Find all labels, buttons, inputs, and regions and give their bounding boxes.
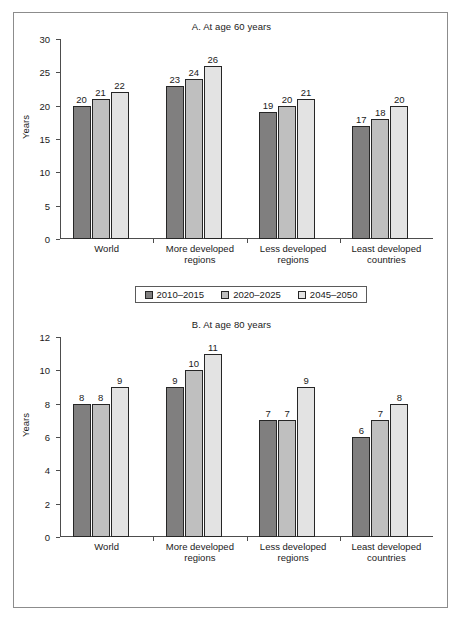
figure-page: A. At age 60 years Years 051015202530202… <box>0 0 461 622</box>
bar-value-label: 20 <box>76 94 87 105</box>
chart-panel-a: A. At age 60 years Years 051015202530202… <box>14 15 449 311</box>
bar-value-label: 11 <box>208 342 218 353</box>
bar: 21 <box>92 99 110 239</box>
bar: 26 <box>204 66 222 239</box>
chart-b-plot-area: 02468101288991011779678 <box>60 337 433 537</box>
x-axis-category-label-line: Least developed <box>340 541 433 552</box>
bar-value-label: 8 <box>98 392 103 403</box>
bar-group: 171820 <box>340 39 433 239</box>
bar-value-label: 9 <box>172 375 177 386</box>
bar-value-label: 24 <box>189 67 200 78</box>
bar: 22 <box>111 92 129 239</box>
chart-a-plot-area: 051015202530202122232426192021171820 <box>60 39 433 239</box>
chart-b-y-axis-title: Years <box>20 413 31 437</box>
y-axis-tick: 0 <box>56 239 60 240</box>
x-axis-category-label-line: countries <box>340 552 433 563</box>
bar: 11 <box>204 354 222 537</box>
bar-value-label: 26 <box>208 54 219 65</box>
y-axis-tick-label: 8 <box>45 398 50 409</box>
bar-value-label: 19 <box>263 100 274 111</box>
x-axis-category-label-line: regions <box>247 552 340 563</box>
x-axis-category-label: World <box>60 243 153 254</box>
y-axis-tick: 0 <box>56 537 60 538</box>
legend-label: 2010–2015 <box>157 289 205 300</box>
bar: 23 <box>166 86 184 239</box>
x-axis-category-label: Least developedcountries <box>340 243 433 265</box>
bar: 21 <box>297 99 315 239</box>
chart-panel-b: B. At age 80 years Years 024681012889910… <box>14 313 449 607</box>
x-axis-category-label-line: regions <box>153 552 246 563</box>
x-axis-category-label-line: More developed <box>153 243 246 254</box>
y-axis-tick-label: 2 <box>45 498 50 509</box>
bar: 7 <box>371 420 389 537</box>
bar: 7 <box>259 420 277 537</box>
bar-group: 889 <box>60 337 153 537</box>
bar: 18 <box>371 119 389 239</box>
bar: 8 <box>390 404 408 537</box>
bar: 17 <box>352 126 370 239</box>
bar-group: 678 <box>340 337 433 537</box>
bar: 8 <box>73 404 91 537</box>
legend-swatch-icon <box>298 291 306 299</box>
chart-a-title: A. At age 60 years <box>14 21 449 32</box>
x-axis-category-label-line: Less developed <box>247 243 340 254</box>
chart-a-legend: 2010–20152020–20252045–2050 <box>135 286 367 303</box>
bar-group: 91011 <box>153 337 246 537</box>
bar: 8 <box>92 404 110 537</box>
y-axis-tick-label: 12 <box>39 332 50 343</box>
bar-value-label: 7 <box>378 408 383 419</box>
legend-item: 2010–2015 <box>145 289 205 300</box>
bar-value-label: 18 <box>375 107 386 118</box>
y-axis-tick-label: 15 <box>39 134 50 145</box>
x-axis-category-label: More developedregions <box>153 243 246 265</box>
legend-item: 2020–2025 <box>221 289 281 300</box>
legend-label: 2020–2025 <box>233 289 281 300</box>
y-axis-tick-label: 5 <box>45 200 50 211</box>
figure-frame: A. At age 60 years Years 051015202530202… <box>13 12 448 608</box>
y-axis-tick-label: 10 <box>39 167 50 178</box>
x-axis-category-label: Less developedregions <box>247 243 340 265</box>
bar-value-label: 10 <box>189 358 200 369</box>
bar-value-label: 7 <box>284 408 289 419</box>
x-axis-category-label: Less developedregions <box>247 541 340 563</box>
x-axis-category-label-line: World <box>60 243 153 254</box>
bar-value-label: 17 <box>356 114 367 125</box>
y-axis-tick-label: 0 <box>45 532 50 543</box>
legend-item: 2045–2050 <box>298 289 358 300</box>
y-axis-tick-label: 6 <box>45 432 50 443</box>
bar: 9 <box>111 387 129 537</box>
x-axis-category-label-line: countries <box>340 254 433 265</box>
x-axis-category-label-line: regions <box>153 254 246 265</box>
bar-value-label: 21 <box>95 87 106 98</box>
y-axis-tick-label: 0 <box>45 234 50 245</box>
y-axis-tick-label: 30 <box>39 34 50 45</box>
bar-value-label: 20 <box>394 94 405 105</box>
bar-value-label: 23 <box>170 74 181 85</box>
y-axis-tick-label: 4 <box>45 465 50 476</box>
chart-b-title: B. At age 80 years <box>14 319 449 330</box>
legend-swatch-icon <box>145 291 153 299</box>
bar: 20 <box>278 106 296 239</box>
bar: 19 <box>259 112 277 239</box>
bar: 10 <box>185 370 203 537</box>
y-axis-tick-label: 20 <box>39 100 50 111</box>
x-axis-category-label: Least developedcountries <box>340 541 433 563</box>
y-axis-tick-label: 10 <box>39 365 50 376</box>
x-axis-category-label: World <box>60 541 153 552</box>
bar-group: 232426 <box>153 39 246 239</box>
x-axis-category-label-line: Less developed <box>247 541 340 552</box>
bar-value-label: 8 <box>397 392 402 403</box>
bar-group: 779 <box>247 337 340 537</box>
bar-value-label: 8 <box>79 392 84 403</box>
bar: 7 <box>278 420 296 537</box>
bar-value-label: 7 <box>265 408 270 419</box>
bar-value-label: 22 <box>114 80 125 91</box>
y-axis-tick-label: 25 <box>39 67 50 78</box>
bar: 20 <box>390 106 408 239</box>
bar: 9 <box>166 387 184 537</box>
bar-group: 192021 <box>247 39 340 239</box>
legend-label: 2045–2050 <box>310 289 358 300</box>
bar-value-label: 20 <box>282 94 293 105</box>
bar: 20 <box>73 106 91 239</box>
x-axis-category-label-line: World <box>60 541 153 552</box>
